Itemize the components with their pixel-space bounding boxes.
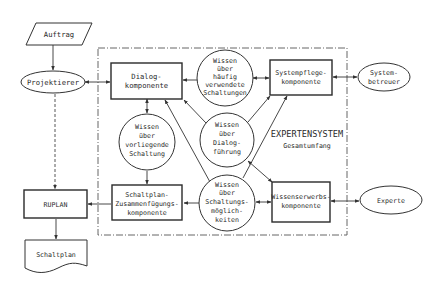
node-systembetreuer[interactable]: System- betreuer bbox=[358, 63, 410, 91]
svg-text:Auftrag: Auftrag bbox=[44, 30, 74, 39]
svg-text:führung: führung bbox=[213, 148, 241, 156]
svg-text:über: über bbox=[139, 132, 155, 140]
node-wissen-vorliegende-schaltung[interactable]: Wissen über vorliegende Schaltung bbox=[119, 114, 175, 170]
expert-system-diagram: EXPERTENSYSTEM Gesamtumfang bbox=[0, 0, 440, 291]
svg-text:System-: System- bbox=[370, 69, 398, 77]
svg-text:möglich-: möglich- bbox=[211, 207, 243, 215]
svg-text:Wissen: Wissen bbox=[215, 121, 239, 129]
svg-text:RUPLAN: RUPLAN bbox=[44, 201, 68, 209]
svg-text:komponente: komponente bbox=[127, 209, 167, 217]
svg-text:betreuer: betreuer bbox=[368, 78, 400, 86]
svg-text:Wissenserwerbs-: Wissenserwerbs- bbox=[271, 193, 331, 201]
node-schaltplan-zusammenfuegungskomponente[interactable]: Schaltplan- Zusammenfügungs- komponente bbox=[112, 185, 182, 220]
svg-text:keiten: keiten bbox=[215, 216, 239, 224]
edge-dialogfuehrung-dialog bbox=[184, 100, 206, 123]
node-schaltplan-document[interactable]: Schaltplan bbox=[25, 240, 87, 273]
node-auftrag[interactable]: Auftrag bbox=[26, 23, 92, 45]
svg-text:vorliegende: vorliegende bbox=[125, 141, 169, 149]
node-wissen-haeufig-verwendete-schaltungen[interactable]: Wissen über häufig verwendete Schaltunge… bbox=[197, 50, 253, 106]
edge-dialogfuehrung-systempflege bbox=[248, 96, 270, 122]
frame-subtitle: Gesamtumfang bbox=[283, 142, 331, 150]
frame-title: EXPERTENSYSTEM bbox=[271, 129, 343, 139]
node-ruplan[interactable]: RUPLAN bbox=[24, 190, 87, 218]
svg-text:komponente: komponente bbox=[125, 81, 168, 90]
svg-text:Projektierer: Projektierer bbox=[27, 78, 80, 87]
node-systempflegekomponente[interactable]: Systempflege- komponente bbox=[270, 60, 332, 95]
edge-dialogfuehrung-wissenserwerb bbox=[248, 161, 272, 182]
node-dialogkomponente[interactable]: Dialog- komponente bbox=[111, 63, 182, 99]
svg-text:über: über bbox=[217, 65, 233, 73]
svg-text:Schaltung: Schaltung bbox=[129, 150, 165, 158]
node-experte[interactable]: Experte bbox=[360, 186, 422, 214]
svg-text:Schaltungen: Schaltungen bbox=[203, 89, 247, 97]
svg-text:Wissen: Wissen bbox=[213, 57, 237, 65]
svg-text:über: über bbox=[219, 189, 235, 197]
svg-text:komponente: komponente bbox=[281, 78, 321, 86]
svg-text:häufig: häufig bbox=[213, 73, 237, 81]
node-projektierer[interactable]: Projektierer bbox=[21, 71, 85, 93]
node-wissenserwerbskomponente[interactable]: Wissenserwerbs- komponente bbox=[271, 182, 331, 222]
svg-text:Schaltplan-: Schaltplan- bbox=[125, 191, 169, 199]
node-wissen-dialogfuehrung[interactable]: Wissen über Dialog- führung bbox=[200, 113, 254, 167]
svg-text:Zusammenfügungs-: Zusammenfügungs- bbox=[115, 200, 179, 208]
svg-text:Wissen: Wissen bbox=[135, 123, 159, 131]
svg-text:Wissen: Wissen bbox=[215, 181, 239, 189]
svg-text:Dialog-: Dialog- bbox=[213, 139, 241, 147]
svg-text:Experte: Experte bbox=[377, 197, 405, 205]
svg-text:komponente: komponente bbox=[281, 202, 321, 210]
node-wissen-schaltungsmoeglichkeiten[interactable]: Wissen über Schaltungs- möglich- keiten bbox=[199, 175, 255, 231]
svg-text:Schaltungs-: Schaltungs- bbox=[205, 198, 249, 206]
svg-text:verwendete: verwendete bbox=[205, 81, 245, 89]
svg-text:Dialog-: Dialog- bbox=[131, 72, 161, 81]
svg-text:Schaltplan: Schaltplan bbox=[36, 251, 76, 259]
svg-text:Systempflege-: Systempflege- bbox=[275, 69, 327, 77]
svg-text:über: über bbox=[219, 130, 235, 138]
